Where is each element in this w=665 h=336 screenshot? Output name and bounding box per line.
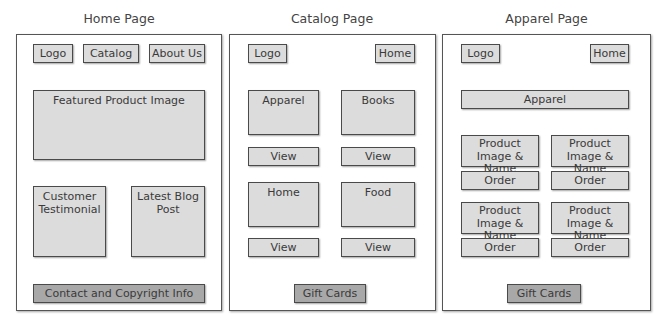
order-button-2: Order bbox=[551, 171, 629, 190]
catalog-page-wireframe bbox=[229, 34, 436, 311]
apparel-home-nav-box: Home bbox=[590, 44, 629, 63]
catalog-logo-box: Logo bbox=[248, 44, 287, 63]
view-button-food: View bbox=[341, 238, 415, 257]
home-logo-box: Logo bbox=[33, 44, 73, 63]
order-button-1: Order bbox=[461, 171, 539, 190]
product-box-2: Product Image & Name bbox=[551, 135, 629, 167]
view-button-apparel: View bbox=[248, 147, 319, 166]
category-box-home: Home bbox=[248, 182, 319, 227]
apparel-header-bar: Apparel bbox=[461, 90, 629, 109]
featured-product-image-box: Featured Product Image bbox=[33, 90, 205, 160]
home-page-title: Home Page bbox=[16, 11, 222, 26]
product-box-3: Product Image & Name bbox=[461, 202, 539, 234]
customer-testimonial-box: Customer Testimonial bbox=[33, 186, 106, 257]
apparel-page-title: Apparel Page bbox=[442, 11, 651, 26]
category-box-apparel: Apparel bbox=[248, 90, 319, 135]
apparel-logo-box: Logo bbox=[461, 44, 500, 63]
home-page-wireframe bbox=[16, 34, 222, 311]
catalog-home-nav-box: Home bbox=[375, 44, 415, 63]
view-button-books: View bbox=[341, 147, 415, 166]
home-about-nav-box: About Us bbox=[149, 44, 205, 63]
product-box-1: Product Image & Name bbox=[461, 135, 539, 167]
order-button-3: Order bbox=[461, 238, 539, 257]
apparel-gift-cards-box: Gift Cards bbox=[507, 284, 581, 303]
order-button-4: Order bbox=[551, 238, 629, 257]
home-footer-box: Contact and Copyright Info bbox=[33, 284, 205, 303]
category-box-books: Books bbox=[341, 90, 415, 135]
product-box-4: Product Image & Name bbox=[551, 202, 629, 234]
catalog-page-title: Catalog Page bbox=[229, 11, 435, 26]
latest-blog-post-box: Latest Blog Post bbox=[131, 186, 205, 257]
home-catalog-nav-box: Catalog bbox=[83, 44, 139, 63]
category-box-food: Food bbox=[341, 182, 415, 227]
catalog-gift-cards-box: Gift Cards bbox=[294, 284, 366, 303]
view-button-home: View bbox=[248, 238, 319, 257]
